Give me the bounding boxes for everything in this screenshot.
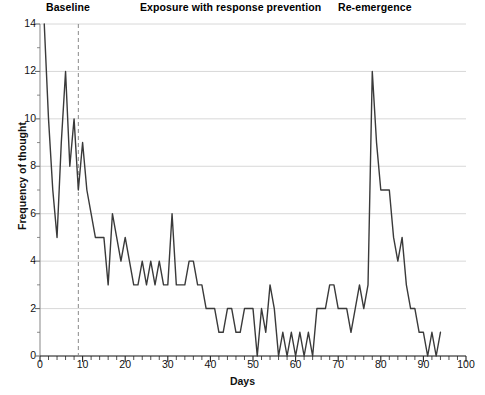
chart-figure: Baseline Exposure with response preventi… — [0, 0, 485, 395]
gridlines — [40, 24, 466, 356]
data-series-line — [44, 24, 440, 356]
axis-lines — [40, 24, 466, 356]
plot-area — [0, 0, 485, 395]
x-axis-minor-ticks — [35, 24, 466, 362]
